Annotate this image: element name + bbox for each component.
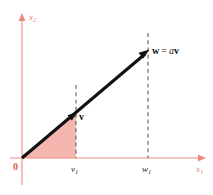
x-axis-label-subscript: 1 bbox=[200, 168, 203, 175]
y-axis-label-subscript: 2 bbox=[33, 16, 36, 23]
origin-label: 0 bbox=[13, 162, 18, 172]
tick-label-v1: v1 bbox=[71, 165, 78, 175]
tick-label-v1-subscript: 1 bbox=[75, 168, 78, 175]
diagram-canvas bbox=[0, 0, 213, 195]
vector-v-symbol-in-expression: v bbox=[174, 45, 179, 56]
tick-label-w1-subscript: 1 bbox=[148, 168, 151, 175]
equals-sign: = bbox=[159, 45, 169, 56]
vector-w-line bbox=[22, 54, 145, 158]
x-axis-arrowhead-icon bbox=[198, 155, 206, 162]
x-axis-label: x1 bbox=[196, 165, 203, 175]
vector-v-label: v bbox=[79, 112, 84, 122]
y-axis-label: x2 bbox=[29, 13, 36, 23]
vector-w-expression-label: w=av bbox=[152, 46, 179, 56]
vector-diagram-figure: x2 x1 0 v1 w1 v w=av bbox=[0, 0, 213, 195]
tick-label-w1: w1 bbox=[142, 165, 151, 175]
y-axis-arrowhead-icon bbox=[19, 13, 26, 21]
